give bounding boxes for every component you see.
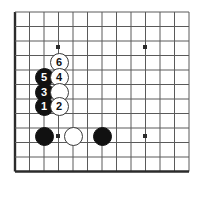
white-stone-2: 2 <box>50 97 69 116</box>
star-point-lower-right <box>143 134 147 138</box>
stone-move-number: 5 <box>41 71 47 82</box>
stone-move-number: 1 <box>41 100 47 111</box>
stone-move-number: 4 <box>56 71 62 82</box>
stone-move-number: 3 <box>41 86 47 97</box>
star-point-upper-right <box>143 45 147 49</box>
go-board-grid <box>0 0 211 202</box>
stone-move-number: 2 <box>56 100 62 111</box>
black-stone-lower-right <box>93 127 112 146</box>
star-point-lower-left <box>56 134 60 138</box>
star-point-upper-left <box>56 45 60 49</box>
white-stone-lower-middle <box>64 127 83 146</box>
stone-move-number: 6 <box>56 56 62 67</box>
go-board-diagram: 654312 <box>0 0 211 202</box>
black-stone-corner-left <box>35 127 54 146</box>
